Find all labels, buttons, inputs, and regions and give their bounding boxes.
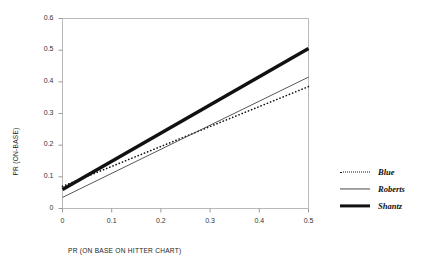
x-tick-label: 0.4 — [244, 217, 274, 224]
series-line-shantz — [63, 49, 309, 190]
x-tick-label: 0 — [48, 217, 78, 224]
legend-item-roberts: Roberts — [340, 180, 405, 197]
x-tick-label: 0.3 — [195, 217, 225, 224]
legend-line-sample — [340, 204, 370, 207]
y-tick-label: 0.3 — [30, 109, 54, 116]
legend-item-shantz: Shantz — [340, 197, 405, 214]
legend-swatch-blue — [340, 167, 370, 177]
legend-line-sample — [340, 171, 370, 172]
legend-swatch-shantz — [340, 201, 370, 211]
y-tick-label: 0.6 — [30, 14, 54, 21]
legend-label: Blue — [378, 167, 395, 177]
series-line-roberts — [63, 77, 309, 197]
y-tick-label: 0 — [30, 204, 54, 211]
x-tick-label: 0.2 — [146, 217, 176, 224]
x-axis-title: PR (ON BASE ON HITTER CHART) — [68, 247, 182, 254]
series-line-blue — [63, 87, 309, 187]
legend-label: Roberts — [378, 184, 405, 194]
legend-swatch-roberts — [340, 184, 370, 194]
legend-item-blue: Blue — [340, 163, 405, 180]
chart-figure: 00.10.20.30.40.50.6 00.10.20.30.40.5 PR … — [0, 0, 432, 273]
plot-area — [0, 0, 432, 273]
chart-legend: BlueRobertsShantz — [340, 163, 405, 214]
y-tick-label: 0.2 — [30, 140, 54, 147]
x-tick-label: 0.5 — [294, 217, 324, 224]
y-tick-label: 0.1 — [30, 172, 54, 179]
x-tick-label: 0.1 — [97, 217, 127, 224]
y-axis-title: PR (ON-BASE) — [12, 113, 19, 191]
y-tick-label: 0.4 — [30, 77, 54, 84]
y-tick-label: 0.5 — [30, 45, 54, 52]
legend-label: Shantz — [378, 201, 402, 211]
legend-line-sample — [340, 188, 370, 189]
